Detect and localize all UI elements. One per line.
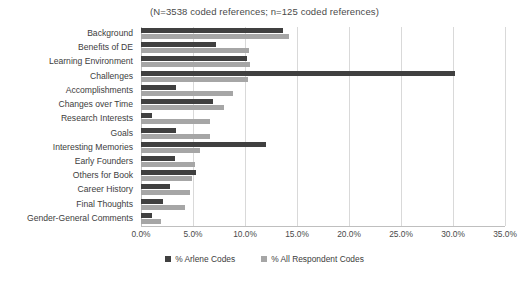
bar-all-respondent[interactable] [141,77,248,82]
bar-row [141,184,505,198]
bar-all-respondent[interactable] [141,34,289,39]
category-label: Changes over Time [58,100,133,109]
bar-arlene[interactable] [141,128,176,133]
bar-row [141,156,505,170]
bar-arlene[interactable] [141,99,213,104]
bar-all-respondent[interactable] [141,105,224,110]
x-axis-line [141,226,505,227]
category-label: Challenges [90,72,133,81]
bar-arlene[interactable] [141,113,152,118]
bar-arlene[interactable] [141,85,176,90]
bar-row [141,128,505,142]
bar-all-respondent[interactable] [141,176,192,181]
bar-arlene[interactable] [141,184,170,189]
x-axis-tick-label: 15.0% [285,229,309,239]
category-label: Accomplishments [66,86,133,95]
bar-row [141,213,505,227]
bar-chart: (N=3538 coded references; n=125 coded re… [0,0,529,281]
x-axis-tick-labels: 0.0%5.0%10.0%15.0%20.0%25.0%30.0%35.0% [141,229,505,243]
category-label: Gender-General Comments [27,214,133,223]
bar-arlene[interactable] [141,56,247,61]
bar-all-respondent[interactable] [141,219,161,224]
bar-arlene[interactable] [141,199,163,204]
category-label: Goals [111,129,133,138]
legend-label-arlene: % Arlene Codes [175,254,235,264]
bar-arlene[interactable] [141,28,283,33]
category-label: Final Thoughts [76,200,133,209]
x-axis-tick-label: 30.0% [441,229,465,239]
category-label: Career History [78,185,133,194]
bar-all-respondent[interactable] [141,62,250,67]
gridline [505,27,506,226]
x-axis-tick-label: 35.0% [493,229,517,239]
legend-item-all-respondent[interactable]: % All Respondent Codes [261,254,364,264]
bar-row [141,113,505,127]
bar-row [141,28,505,42]
bar-all-respondent[interactable] [141,91,233,96]
bar-all-respondent[interactable] [141,48,249,53]
chart-title: (N=3538 coded references; n=125 coded re… [0,6,529,17]
bar-row [141,199,505,213]
x-axis-tick-label: 20.0% [337,229,361,239]
bar-arlene[interactable] [141,42,216,47]
bar-all-respondent[interactable] [141,148,200,153]
x-axis-tick-label: 25.0% [389,229,413,239]
chart-legend: % Arlene Codes % All Respondent Codes [0,254,529,264]
category-label: Benefits of DE [78,43,133,52]
x-axis-tick-label: 10.0% [233,229,257,239]
bar-row [141,99,505,113]
category-axis-labels: BackgroundBenefits of DELearning Environ… [0,27,137,226]
x-axis-tick-label: 5.0% [183,229,202,239]
bar-all-respondent[interactable] [141,119,210,124]
category-label: Research Interests [61,114,133,123]
bar-all-respondent[interactable] [141,190,190,195]
bar-all-respondent[interactable] [141,162,195,167]
bar-arlene[interactable] [141,156,175,161]
bar-row [141,42,505,56]
category-label: Learning Environment [49,57,133,66]
legend-swatch-icon [261,256,267,262]
bar-rows [141,27,505,226]
legend-item-arlene[interactable]: % Arlene Codes [165,254,235,264]
bar-row [141,71,505,85]
legend-label-all-respondent: % All Respondent Codes [271,254,364,264]
bar-all-respondent[interactable] [141,205,185,210]
bar-arlene[interactable] [141,170,196,175]
bar-row [141,170,505,184]
bar-arlene[interactable] [141,213,152,218]
category-label: Interesting Memories [53,143,133,152]
bar-row [141,142,505,156]
category-label: Others for Book [73,171,133,180]
category-label: Background [87,29,133,38]
bar-arlene[interactable] [141,71,455,76]
bar-row [141,85,505,99]
bar-row [141,56,505,70]
bar-all-respondent[interactable] [141,134,210,139]
bar-arlene[interactable] [141,142,266,147]
legend-swatch-icon [165,256,171,262]
x-axis-tick-label: 0.0% [131,229,150,239]
plot-area [141,27,505,226]
category-label: Early Founders [75,157,133,166]
